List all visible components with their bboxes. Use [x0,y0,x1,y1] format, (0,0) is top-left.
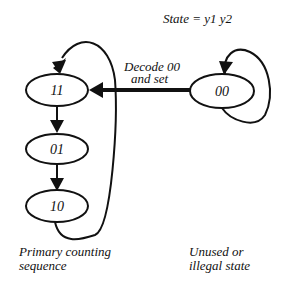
state-10: 10 [26,190,88,222]
state-00: 00 [190,74,254,108]
caption-left-line2: sequence [19,258,67,273]
state-10-label: 10 [50,199,64,214]
caption-right-line2: illegal state [189,258,250,273]
state-11-label: 11 [51,83,64,98]
transition-label-line2: and set [131,71,169,86]
arrow-11-to-01 [50,120,64,133]
state-11: 11 [26,74,88,106]
state-00-label: 00 [215,84,229,99]
caption-right-line1: Unused or [189,244,244,259]
arrowhead-into-11-from-00 [89,82,103,98]
state-encoding-label: State = y1 y2 [163,11,233,26]
caption-left-line1: Primary counting [18,244,112,259]
state-01-label: 01 [50,142,64,157]
state-01: 01 [26,134,88,164]
state-diagram: State = y1 y2 Decode 00 and set 11 01 10… [0,0,289,288]
arrowhead-self-loop-00 [219,61,233,75]
